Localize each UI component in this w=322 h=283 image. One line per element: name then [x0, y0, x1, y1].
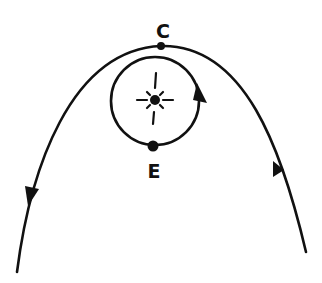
arrow-down-left-icon [25, 186, 39, 206]
sun-icon [137, 73, 173, 124]
arrow-up-right-icon [273, 161, 284, 177]
orbit-diagram [0, 0, 322, 283]
label-e: E [148, 162, 161, 181]
point-c [157, 42, 165, 50]
point-e [148, 141, 159, 152]
label-c: C [156, 22, 170, 41]
comet-parabolic-orbit [17, 46, 306, 272]
